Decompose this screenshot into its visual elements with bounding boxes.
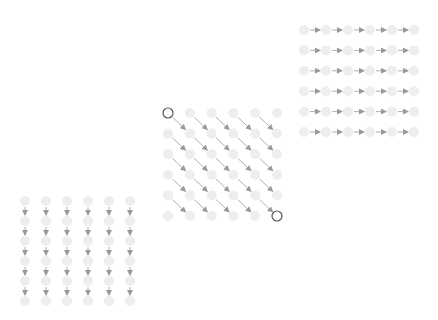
node (228, 170, 238, 180)
node (62, 256, 72, 266)
edge-arrow (194, 117, 207, 129)
node (228, 108, 238, 118)
edge-arrow (238, 117, 251, 129)
node (343, 86, 353, 96)
node (299, 86, 309, 96)
node (387, 45, 397, 55)
node (409, 45, 419, 55)
node (207, 108, 217, 118)
node (83, 276, 93, 286)
edge-arrow (216, 117, 229, 129)
node (387, 25, 397, 35)
node (41, 256, 51, 266)
node (104, 216, 114, 226)
node (125, 276, 135, 286)
node (163, 149, 173, 159)
edge-arrow (260, 200, 273, 212)
edge-arrow (260, 138, 273, 150)
edge-arrow (194, 158, 207, 170)
node (299, 127, 309, 137)
node (185, 190, 195, 200)
node (365, 107, 375, 117)
edge-arrow (260, 158, 273, 170)
node (20, 256, 30, 266)
node (104, 256, 114, 266)
node (365, 45, 375, 55)
node (365, 127, 375, 137)
node (104, 196, 114, 206)
edge-arrow (172, 179, 185, 191)
node (250, 149, 260, 159)
node (272, 170, 282, 180)
node (409, 127, 419, 137)
node (299, 66, 309, 76)
edge-arrow (194, 179, 207, 191)
node (20, 236, 30, 246)
edge-arrow (172, 158, 185, 170)
node (343, 45, 353, 55)
highlighted-node (163, 108, 173, 118)
highlighted-node (272, 211, 282, 221)
node (228, 211, 238, 221)
node (20, 196, 30, 206)
node (83, 296, 93, 306)
node (185, 149, 195, 159)
node (250, 190, 260, 200)
edge-arrow (238, 158, 251, 170)
node (343, 107, 353, 117)
node (125, 216, 135, 226)
diagonal-grid (163, 108, 282, 221)
node (207, 149, 217, 159)
node (125, 236, 135, 246)
node (83, 196, 93, 206)
node (272, 190, 282, 200)
node (62, 296, 72, 306)
node (272, 108, 282, 118)
node (83, 256, 93, 266)
node (185, 129, 195, 139)
node (125, 256, 135, 266)
node (163, 190, 173, 200)
node (125, 296, 135, 306)
node (207, 129, 217, 139)
node (163, 170, 173, 180)
node (321, 86, 331, 96)
node (409, 86, 419, 96)
node (387, 107, 397, 117)
row-grid (299, 25, 419, 137)
column-grid (20, 196, 135, 306)
node (321, 25, 331, 35)
edge-arrow (172, 117, 185, 129)
node (321, 66, 331, 76)
node (228, 190, 238, 200)
node (299, 45, 309, 55)
node (228, 129, 238, 139)
node (185, 170, 195, 180)
node (125, 196, 135, 206)
node (104, 236, 114, 246)
node (409, 107, 419, 117)
node (207, 190, 217, 200)
node (41, 236, 51, 246)
node (228, 149, 238, 159)
node (62, 236, 72, 246)
node (185, 211, 195, 221)
node (41, 276, 51, 286)
node (163, 211, 173, 221)
node (321, 45, 331, 55)
node (365, 66, 375, 76)
node (20, 276, 30, 286)
node (321, 107, 331, 117)
node (20, 296, 30, 306)
edge-arrow (216, 200, 229, 212)
edge-arrow (238, 138, 251, 150)
edge-arrow (172, 200, 185, 212)
node (409, 25, 419, 35)
edge-arrow (238, 200, 251, 212)
node (365, 25, 375, 35)
edge-arrow (172, 138, 185, 150)
node (20, 216, 30, 226)
node (62, 276, 72, 286)
node (83, 236, 93, 246)
node (343, 66, 353, 76)
